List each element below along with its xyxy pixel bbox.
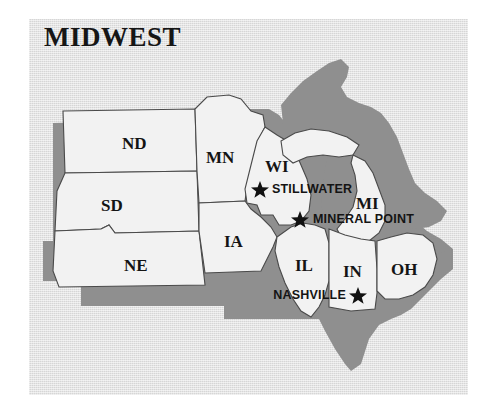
state-label-MN: MN xyxy=(206,148,235,167)
state-label-IA: IA xyxy=(224,232,244,251)
midwest-map: ND SD NE MN IA WI MI IL IN OH STILLWATER… xyxy=(29,19,468,395)
city-label-stillwater: STILLWATER xyxy=(272,182,352,196)
city-label-nashville: NASHVILLE xyxy=(273,288,346,302)
state-label-IN: IN xyxy=(343,262,363,281)
state-label-NE: NE xyxy=(124,256,148,275)
city-label-mineral-point: MINERAL POINT xyxy=(313,212,414,226)
state-label-WI: WI xyxy=(265,157,289,176)
state-SD[interactable] xyxy=(55,171,199,233)
state-label-SD: SD xyxy=(101,196,123,215)
state-label-ND: ND xyxy=(122,134,147,153)
state-label-MI: MI xyxy=(356,194,379,213)
state-label-IL: IL xyxy=(295,256,313,275)
state-label-OH: OH xyxy=(391,260,417,279)
map-figure: MIDWEST xyxy=(0,0,490,409)
